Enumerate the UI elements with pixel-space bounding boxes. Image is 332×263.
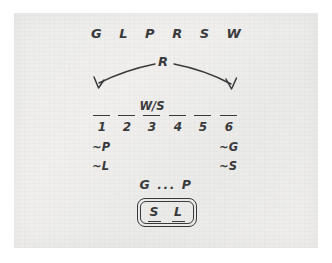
answer-slot-1[interactable]: S <box>145 204 163 222</box>
slot-6-blank <box>220 115 237 116</box>
slot-3-number: 3 <box>140 120 164 134</box>
slot-4-number: 4 <box>166 120 190 134</box>
slot-3-blank <box>143 115 160 116</box>
right-constraints: ~G ~S <box>219 140 238 178</box>
left-constraint-1: ~P <box>92 140 110 154</box>
slot-row: 1 2 W/S 3 4 5 6 <box>90 100 242 142</box>
right-constraint-2: ~S <box>219 159 238 173</box>
answer-slot-2-letter: L <box>169 204 187 219</box>
slot-4-blank <box>169 115 186 116</box>
sequence-constraint: G ... P <box>0 179 332 192</box>
pivot-letter: R <box>158 55 168 68</box>
answer-slot-1-letter: S <box>145 204 163 219</box>
answer-box[interactable]: S L <box>137 198 197 227</box>
left-constraints: ~P ~L <box>92 140 110 178</box>
slot-2-number: 2 <box>115 120 139 134</box>
roster-letters: G L P R S W <box>0 27 332 40</box>
answer-slot-2[interactable]: L <box>169 204 187 222</box>
slot-1-blank <box>93 115 110 116</box>
slot-2-blank <box>118 115 135 116</box>
slot-6-number: 6 <box>217 120 241 134</box>
slot-5-number: 5 <box>191 120 215 134</box>
answer-slot-1-underline <box>148 221 161 222</box>
right-constraint-1: ~G <box>219 140 238 154</box>
left-constraint-2: ~L <box>92 159 110 173</box>
slot-1-number: 1 <box>90 120 114 134</box>
slot-5-blank <box>194 115 211 116</box>
answer-slot-2-underline <box>172 221 185 222</box>
screenshot-canvas: G L P R S W R 1 2 W/S 3 4 <box>0 0 332 263</box>
slot-3-above: W/S <box>132 99 172 113</box>
